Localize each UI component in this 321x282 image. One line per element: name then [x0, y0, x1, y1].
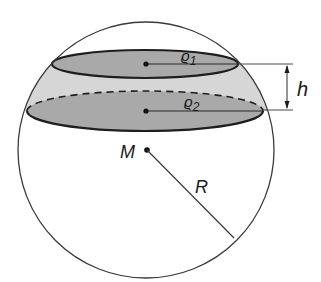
- h-arrow-down-icon: [285, 101, 290, 109]
- radius-label: R: [195, 177, 208, 197]
- height-label: h: [297, 78, 308, 100]
- radius-line: [147, 150, 234, 238]
- h-arrow-up-icon: [285, 65, 290, 73]
- diagram-canvas: ϱ1 ϱ2 h M R: [0, 0, 321, 282]
- bottom-center-dot: [143, 108, 148, 113]
- spherical-zone-diagram: ϱ1 ϱ2 h M R: [0, 0, 321, 282]
- top-center-dot: [143, 61, 148, 66]
- center-label: M: [120, 142, 135, 162]
